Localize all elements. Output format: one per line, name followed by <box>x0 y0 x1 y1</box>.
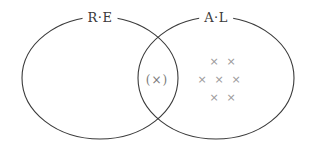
right-only-mark: × <box>226 92 235 104</box>
right-only-mark: × <box>197 74 206 86</box>
set-left-label: R·E <box>83 11 118 25</box>
right-only-mark: × <box>214 74 223 86</box>
right-only-mark: × <box>209 56 218 68</box>
intersection-mark: (×) <box>146 74 168 86</box>
right-only-mark: × <box>226 56 235 68</box>
set-right-label: A·L <box>199 11 233 25</box>
right-only-mark: × <box>209 92 218 104</box>
right-only-mark: × <box>231 74 240 86</box>
